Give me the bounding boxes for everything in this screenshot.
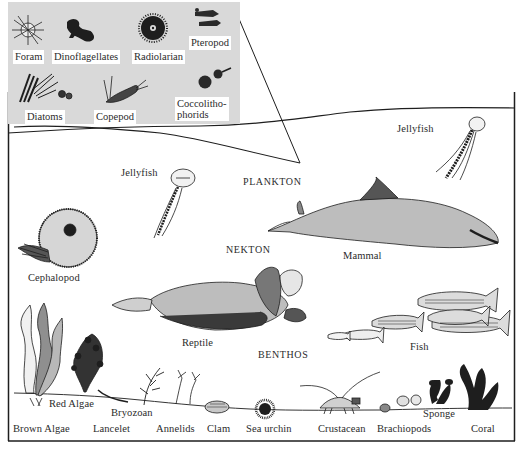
crustacean-icon xyxy=(300,372,380,414)
sea-urchin-icon xyxy=(256,400,274,418)
scene-organism-drawings xyxy=(0,0,521,449)
jellyfish-left-icon xyxy=(154,169,195,238)
label-fish: Fish xyxy=(410,341,429,353)
label-jellyfish-right: Jellyfish xyxy=(397,123,433,135)
label-brachiopods: Brachiopods xyxy=(377,423,431,435)
label-coral: Coral xyxy=(471,423,495,435)
label-reptile: Reptile xyxy=(182,337,213,349)
cephalopod-icon xyxy=(18,209,97,267)
label-jellyfish-left: Jellyfish xyxy=(121,167,157,179)
brown-algae-icon xyxy=(21,303,63,406)
label-cephalopod: Cephalopod xyxy=(28,272,80,284)
label-bryozoan: Bryozoan xyxy=(111,407,153,419)
bryozoan-icon xyxy=(140,368,164,405)
clam-icon xyxy=(205,401,229,413)
jellyfish-right-icon xyxy=(436,117,485,180)
reptile-icon xyxy=(112,267,306,330)
sponge-icon xyxy=(429,379,453,404)
label-sea-urchin: Sea urchin xyxy=(246,423,292,435)
coral-icon xyxy=(460,364,499,410)
brachiopods-icon xyxy=(380,395,421,412)
marine-zones-diagram: Foram Dinoflagellates Radiolarian Pterop… xyxy=(0,0,521,449)
label-sponge: Sponge xyxy=(423,408,455,420)
fish-school-icon xyxy=(328,288,510,343)
label-clam: Clam xyxy=(207,423,230,435)
zone-label-benthos: BENTHOS xyxy=(258,349,308,360)
label-annelids: Annelids xyxy=(156,423,195,435)
label-lancelet: Lancelet xyxy=(93,423,130,435)
zone-label-plankton: PLANKTON xyxy=(243,176,302,187)
lancelet-icon xyxy=(98,390,128,402)
mammal-icon xyxy=(268,177,498,248)
zone-label-nekton: NEKTON xyxy=(226,244,271,255)
red-algae-icon xyxy=(72,334,104,392)
annelids-icon xyxy=(176,370,200,404)
label-crustacean: Crustacean xyxy=(318,423,366,435)
label-red-algae: Red Algae xyxy=(49,398,94,410)
label-brown-algae: Brown Algae xyxy=(13,423,70,435)
label-mammal: Mammal xyxy=(343,250,382,262)
